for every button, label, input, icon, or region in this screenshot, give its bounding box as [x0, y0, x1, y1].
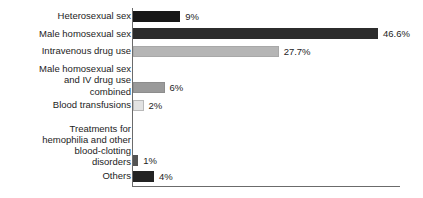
category-label: Others — [3, 170, 131, 181]
category-label: Male homosexual sex and IV drug use comb… — [3, 63, 131, 97]
category-label: Treatments for hemophilia and other bloo… — [3, 123, 131, 168]
bar — [133, 46, 279, 57]
bar — [133, 11, 180, 22]
bar-container: 46.6% — [133, 28, 410, 40]
bar-value-label: 4% — [159, 171, 173, 182]
category-label: Male homosexual sex — [3, 28, 131, 39]
bar — [133, 100, 144, 111]
bar-value-label: 27.7% — [284, 46, 311, 57]
bar-container: 6% — [133, 81, 183, 93]
bar-value-label: 6% — [170, 82, 184, 93]
x-axis-line — [132, 186, 400, 187]
bar-container: 4% — [133, 170, 173, 182]
category-label: Intravenous drug use — [3, 45, 131, 56]
bar — [133, 155, 138, 166]
category-label: Heterosexual sex — [3, 10, 131, 21]
bar-chart: Heterosexual sex9%Male homosexual sex46.… — [0, 0, 423, 198]
bar-container: 2% — [133, 99, 162, 111]
chart-plot-area: Heterosexual sex9%Male homosexual sex46.… — [0, 0, 423, 186]
bar-container: 1% — [133, 154, 157, 166]
bar-value-label: 46.6% — [383, 28, 410, 39]
bar-container: 27.7% — [133, 45, 311, 57]
bar-container: 9% — [133, 10, 199, 22]
bar — [133, 82, 165, 93]
bar — [133, 28, 378, 39]
bar-value-label: 9% — [185, 11, 199, 22]
category-label: Blood transfusions — [3, 99, 131, 110]
bar — [133, 171, 154, 182]
bar-value-label: 1% — [143, 155, 157, 166]
bar-value-label: 2% — [149, 100, 163, 111]
